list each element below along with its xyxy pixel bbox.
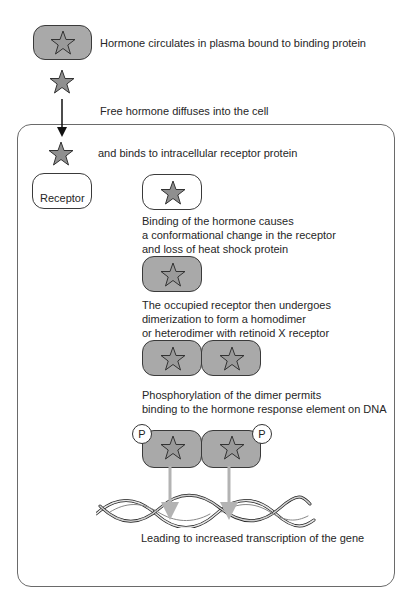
step-dimerization-text: The occupied receptor then undergoes dim… — [142, 298, 331, 340]
dimer-right-receptor — [201, 340, 261, 376]
arrow-down-icon — [219, 466, 239, 522]
text-line: or heterodimer with retinoid X receptor — [142, 326, 331, 340]
arrow-down-icon — [160, 466, 180, 522]
phosphate-right-badge: P — [252, 424, 272, 444]
text-line: dimerization to form a homodimer — [142, 312, 331, 326]
hormone-star-icon — [50, 30, 76, 55]
dimer-left-receptor — [142, 340, 202, 376]
phosphate-left-badge: P — [132, 424, 152, 444]
step-phosphorylation-text: Phosphorylation of the dimer permits bin… — [142, 388, 387, 416]
text-line: Phosphorylation of the dimer permits — [142, 388, 387, 402]
hormone-bound-receptor — [142, 174, 202, 210]
hormone-star-icon — [160, 180, 186, 205]
free-hormone-star-icon — [49, 69, 75, 94]
arrow-down-icon — [55, 99, 69, 139]
step-bind-label: and binds to intracellular receptor prot… — [98, 146, 297, 160]
receptor-box: Receptor — [32, 173, 92, 209]
hormone-star-icon — [219, 346, 245, 371]
text-line: and loss of heat shock protein — [142, 242, 336, 256]
hormone-star-icon — [160, 262, 186, 287]
dna-helix-icon — [96, 492, 316, 528]
step-transcription-label: Leading to increased transcription of th… — [141, 531, 364, 545]
text-line: binding to the hormone response element … — [142, 402, 387, 416]
text-line: a conformational change in the receptor — [142, 228, 336, 242]
binding-protein-complex — [33, 25, 92, 60]
hormone-star-icon — [160, 435, 186, 460]
step-plasma-label: Hormone circulates in plasma bound to bi… — [100, 36, 366, 50]
phosphate-label: P — [138, 428, 145, 440]
text-line: Binding of the hormone causes — [142, 214, 336, 228]
step-conformation-text: Binding of the hormone causes a conforma… — [142, 214, 336, 256]
hormone-star-icon — [160, 346, 186, 371]
phosphate-label: P — [258, 428, 265, 440]
activated-receptor — [142, 256, 202, 292]
hormone-star-icon — [219, 435, 245, 460]
receptor-label: Receptor — [40, 191, 85, 205]
step-diffuse-label: Free hormone diffuses into the cell — [100, 104, 269, 118]
intracellular-hormone-star-icon — [48, 141, 74, 166]
text-line: The occupied receptor then undergoes — [142, 298, 331, 312]
